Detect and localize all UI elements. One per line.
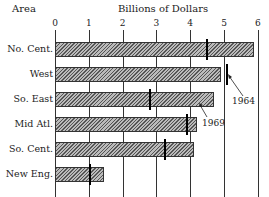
annotation-arrows [0, 0, 269, 197]
